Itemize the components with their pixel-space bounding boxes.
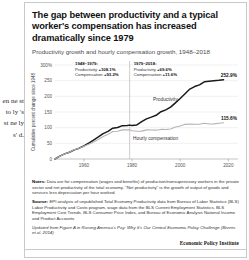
x-tick-label: 1980 <box>127 163 138 168</box>
background-page-text: en ne st to ly 's st ne ly s' d. <box>0 0 26 260</box>
epi-attribution: Economic Policy Institute <box>180 240 239 246</box>
annotation-row: Compensation +93.2% <box>75 72 119 77</box>
endpoint-label-hourly-compensation: 115.6% <box>221 116 238 121</box>
y-tick-label: 0 <box>49 157 52 162</box>
annotation-heading: 1979–2018: <box>134 61 158 66</box>
series-line-hourly-compensation <box>55 123 224 159</box>
x-axis-ticks: 1960198020002020 <box>79 159 234 168</box>
y-tick-label: 250 <box>44 79 52 84</box>
chart-card: The gap between productivity and a typic… <box>24 2 247 258</box>
source-line: Source: EPI analysis of unpublished Tota… <box>32 199 239 221</box>
annotation-row: Compensation +11.6% <box>134 72 178 77</box>
y-axis-title: Cumulative percent change since 1948 <box>31 73 36 151</box>
series-inline-labels: ProductivityHourly compensation <box>133 97 178 141</box>
source-text: EPI analysis of unpublished Total Econom… <box>32 199 239 221</box>
notes-section: Notes: Data are for compensation (wages … <box>25 177 246 236</box>
chart-title: The gap between productivity and a typic… <box>25 3 246 44</box>
endpoint-label-productivity: 252.9% <box>221 73 238 78</box>
y-tick-label: 300% <box>40 63 52 68</box>
notes-label: Notes: <box>32 179 46 184</box>
annotation-heading: 1948–1979: <box>75 61 99 66</box>
x-tick-label: 2000 <box>175 163 186 168</box>
gridlines <box>55 65 238 159</box>
x-tick-label: 1960 <box>79 163 90 168</box>
card-footer: Economic Policy Institute <box>25 239 246 246</box>
series-label-productivity: Productivity <box>153 97 178 102</box>
period-annotations: 1948–1979:Productivity +108.1%Compensati… <box>75 61 177 77</box>
updated-text: Updated from Figure A in Raising America… <box>32 225 235 236</box>
chart-subtitle: Productivity growth and hourly compensat… <box>25 44 246 56</box>
series-label-hourly-compensation: Hourly compensation <box>133 136 178 141</box>
x-tick-label: 2020 <box>223 163 234 168</box>
productivity-pay-gap-chart: 300%250200150100500 1960198020002020 Cum… <box>25 59 247 177</box>
notes-text: Data are for compensation (wages and ben… <box>32 179 239 195</box>
y-tick-label: 100 <box>44 126 52 131</box>
y-tick-label: 50 <box>47 141 53 146</box>
chart-plot-area: 300%250200150100500 1960198020002020 Cum… <box>25 59 247 177</box>
y-tick-label: 200 <box>44 94 52 99</box>
y-axis-ticks: 300%250200150100500 <box>40 63 52 162</box>
updated-line: Updated from Figure A in Raising America… <box>32 225 239 236</box>
series-lines <box>55 80 224 159</box>
y-axis-title-text: Cumulative percent change since 1948 <box>31 73 36 151</box>
y-tick-label: 150 <box>44 110 52 115</box>
footer-divider <box>25 249 246 250</box>
source-label: Source: <box>32 199 48 204</box>
notes-line: Notes: Data are for compensation (wages … <box>32 179 239 196</box>
